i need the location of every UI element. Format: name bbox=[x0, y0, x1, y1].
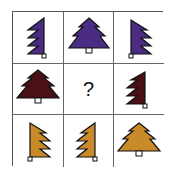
tree-icon bbox=[15, 68, 61, 110]
tree-icon bbox=[116, 119, 162, 163]
cell-r2-c2: ? bbox=[64, 64, 114, 115]
missing-answer-mark: ? bbox=[83, 78, 94, 101]
half-tree-icon bbox=[18, 16, 58, 60]
cell-r1-c1 bbox=[13, 12, 64, 64]
half-tree-icon bbox=[119, 16, 159, 60]
cell-r3-c2 bbox=[64, 115, 114, 167]
cell-r1-c2 bbox=[64, 12, 114, 64]
tree-icon bbox=[67, 16, 111, 60]
half-tree-icon bbox=[69, 119, 109, 163]
puzzle-grid: ? bbox=[12, 11, 163, 166]
cell-r2-c3 bbox=[114, 64, 164, 115]
cell-r2-c1 bbox=[13, 64, 64, 115]
half-tree-icon bbox=[18, 119, 58, 163]
cell-r3-c1 bbox=[13, 115, 64, 167]
cell-r1-c3 bbox=[114, 12, 164, 64]
cell-r3-c3 bbox=[114, 115, 164, 167]
half-tree-icon bbox=[119, 68, 159, 110]
